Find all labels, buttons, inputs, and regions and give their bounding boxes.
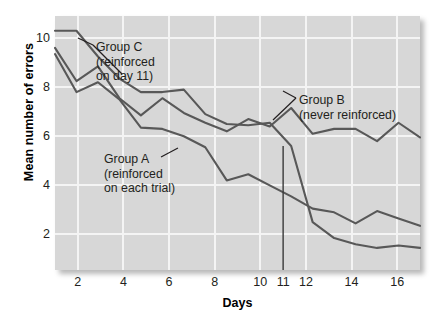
x-tick-label: 14 xyxy=(337,276,367,289)
y-axis-tick-labels: 246810 xyxy=(20,16,50,270)
annotation-group-b: Group B (never reinforced) xyxy=(299,93,396,122)
y-tick-label: 10 xyxy=(24,32,50,45)
annotation-group-a-line1: Group A xyxy=(104,152,175,167)
annotation-group-a: Group A (reinforced on each trial) xyxy=(104,152,175,196)
annotation-group-c-line3: on day 11) xyxy=(96,69,155,84)
annotation-group-c: Group C (reinforced on day 11) xyxy=(96,40,155,84)
annotation-group-c-line1: Group C xyxy=(96,40,155,55)
annotation-group-a-line3: on each trial) xyxy=(104,181,175,196)
line-chart-figure: Mean number of errors 246810 24681011121… xyxy=(0,0,443,333)
x-tick-label: 4 xyxy=(108,276,138,289)
x-tick-label: 6 xyxy=(154,276,184,289)
annotation-group-b-line1: Group B xyxy=(299,93,396,108)
y-tick-label: 2 xyxy=(24,228,50,241)
x-tick-label: 8 xyxy=(200,276,230,289)
annotation-group-a-line2: (reinforced xyxy=(104,167,175,182)
x-axis-tick-labels: 24681011121416 xyxy=(55,276,420,294)
x-tick-label: 2 xyxy=(63,276,93,289)
x-tick-label: 16 xyxy=(382,276,412,289)
y-tick-label: 4 xyxy=(24,179,50,192)
annotation-group-b-line2: (never reinforced) xyxy=(299,108,396,123)
x-axis-title: Days xyxy=(55,296,420,310)
y-tick-label: 6 xyxy=(24,130,50,143)
x-tick-label: 12 xyxy=(291,276,321,289)
y-tick-label: 8 xyxy=(24,81,50,94)
annotation-group-c-line2: (reinforced xyxy=(96,55,155,70)
